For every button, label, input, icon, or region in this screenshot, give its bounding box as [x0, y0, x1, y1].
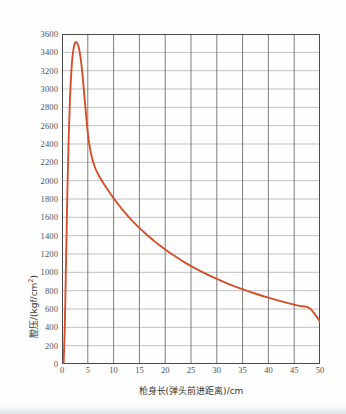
y-axis-title-tail: ) — [29, 275, 39, 279]
y-axis-title-main: 膛压/(kgf/cm — [29, 283, 39, 338]
x-axis-title: 枪身长(弹头前进距离)/cm — [62, 384, 320, 397]
x-axis-tick-labels: 0 5 10 15 20 25 30 35 40 45 50 — [62, 366, 320, 380]
y-tick-2400: 2400 — [18, 140, 58, 149]
x-tick-10: 10 — [109, 366, 118, 375]
x-tick-50: 50 — [316, 366, 325, 375]
y-axis-title-host: 膛压/(kgf/cm2) — [22, 150, 36, 260]
chart-figure: 3600 3400 3200 3000 2800 2600 2400 2200 … — [0, 0, 346, 414]
y-axis-title-exponent: 2 — [27, 279, 35, 283]
x-tick-20: 20 — [161, 366, 170, 375]
y-tick-2600: 2600 — [18, 121, 58, 130]
x-tick-45: 45 — [290, 366, 299, 375]
y-tick-3200: 3200 — [18, 66, 58, 75]
y-tick-3400: 3400 — [18, 48, 58, 57]
x-tick-15: 15 — [135, 366, 144, 375]
x-tick-0: 0 — [60, 366, 64, 375]
page-bottom-edge — [0, 403, 346, 414]
chart-svg — [62, 34, 320, 364]
x-tick-30: 30 — [213, 366, 222, 375]
pressure-curve — [64, 42, 320, 364]
x-tick-25: 25 — [187, 366, 196, 375]
y-tick-3600: 3600 — [18, 30, 58, 39]
y-axis-title: 膛压/(kgf/cm2) — [27, 252, 40, 362]
y-tick-3000: 3000 — [18, 85, 58, 94]
y-tick-2800: 2800 — [18, 103, 58, 112]
x-tick-35: 35 — [238, 366, 247, 375]
plot-area — [62, 34, 320, 364]
x-tick-40: 40 — [264, 366, 273, 375]
x-tick-5: 5 — [86, 366, 90, 375]
